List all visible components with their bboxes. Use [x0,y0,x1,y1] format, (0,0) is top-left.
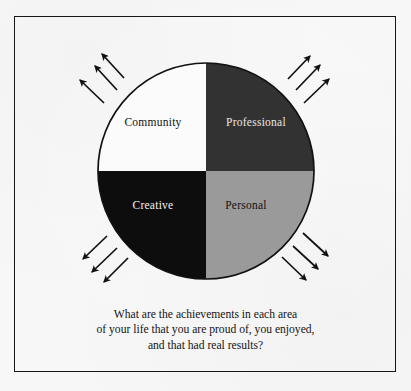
arrow-down-right-1 [303,233,328,256]
arrow-up-left-2 [102,54,124,78]
wheel-quadrants [98,63,314,279]
arrow-down-left-1 [83,236,107,259]
arrow-up-right-1 [288,56,310,79]
diagram-stage: Community Professional Creative Personal… [0,0,411,391]
arrows-top-right-group [288,56,329,103]
arrow-up-left-1 [95,66,117,90]
quadrant-creative[interactable] [98,171,206,279]
caption-line-2: of your life that you are proud of, you … [40,322,371,337]
quadrant-community[interactable] [98,63,206,171]
arrows-top-left-group [80,54,124,103]
arrow-up-right-3 [304,79,329,103]
arrow-up-right-2 [296,65,320,90]
figure-page: Community Professional Creative Personal… [0,0,411,391]
quadrant-personal[interactable] [206,171,314,279]
figure-caption: What are the achievements in each area o… [40,307,371,353]
arrow-down-left-2 [92,248,117,272]
arrow-down-right-3 [282,257,306,280]
arrow-down-right-2 [293,246,318,269]
caption-line-3: and that had real results? [40,338,371,353]
caption-line-1: What are the achievements in each area [40,307,371,322]
arrows-bottom-left-group [83,236,128,282]
arrow-down-left-3 [104,258,128,282]
quadrant-professional[interactable] [206,63,314,171]
arrow-up-left-3 [80,80,104,103]
